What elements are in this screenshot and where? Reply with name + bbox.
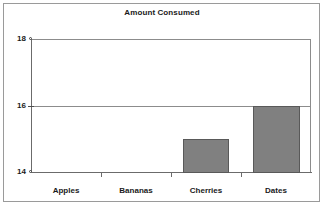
gridline-18 [31,39,311,40]
y-axis-tick-label-14: 14 [4,167,26,176]
chart-title: Amount Consumed [0,8,324,17]
x-axis-label-apples: Apples [31,186,101,196]
x-axis-label-cherries: Cherries [171,186,241,196]
x-axis-label-dates: Dates [241,186,311,196]
bar-cherries[interactable] [183,139,229,173]
y-tick-mark-18 [29,37,32,40]
chart-container: Amount Consumed 18 16 14 Apples Bananas … [0,0,324,206]
x-axis-label-bananas: Bananas [101,186,171,196]
x-tick-1 [101,173,102,177]
y-axis-tick-label-18: 18 [4,34,26,43]
y-tick-mark-16 [28,106,34,107]
x-tick-3 [241,173,242,177]
bar-dates[interactable] [253,106,300,173]
y-axis-tick-label-16: 16 [4,101,26,110]
y-tick-mark-14 [29,170,32,173]
x-tick-2 [171,173,172,177]
